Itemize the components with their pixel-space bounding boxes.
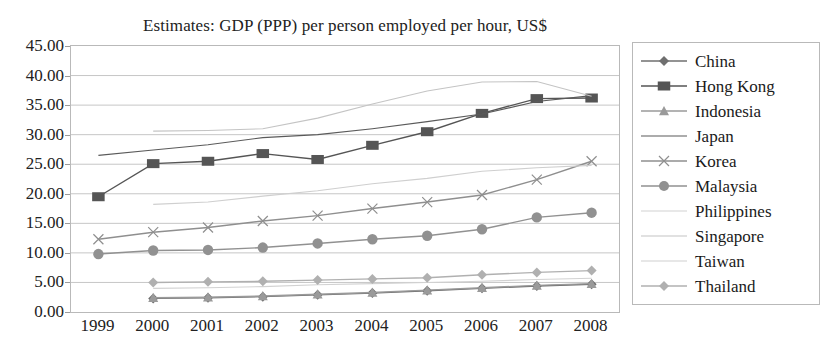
legend-marker-icon	[639, 250, 689, 272]
data-point-marker	[202, 157, 215, 166]
legend-marker-icon	[639, 100, 689, 122]
legend-item-china[interactable]: China	[639, 49, 815, 73]
legend-item-hong-kong[interactable]: Hong Kong	[639, 74, 815, 98]
legend-item-japan[interactable]: Japan	[639, 124, 815, 148]
data-point-marker	[311, 155, 324, 164]
data-point-marker	[421, 127, 434, 136]
data-point-marker	[659, 281, 669, 291]
legend-marker-icon	[639, 275, 689, 297]
data-point-marker	[203, 245, 213, 255]
legend-marker-icon	[639, 125, 689, 147]
series-korea	[93, 156, 596, 244]
data-point-marker	[148, 277, 158, 287]
series-hong-kong	[92, 94, 598, 202]
y-axis-tick	[65, 135, 70, 136]
legend-marker-icon	[639, 225, 689, 247]
series-taiwan	[153, 165, 591, 204]
y-axis-tick-label: 35.00	[26, 95, 64, 115]
y-axis-tick-label: 30.00	[26, 125, 64, 145]
series-line	[98, 213, 591, 254]
data-point-marker	[147, 159, 160, 168]
legend-label: Indonesia	[695, 103, 761, 120]
y-axis-tick	[65, 282, 70, 283]
x-axis-tick-label: 2000	[135, 316, 169, 336]
series-japan	[98, 96, 591, 156]
series-line	[153, 165, 591, 204]
y-axis-tick	[65, 194, 70, 195]
y-axis-tick-label: 20.00	[26, 184, 64, 204]
x-axis-tick-label: 2003	[300, 316, 334, 336]
data-point-marker	[148, 245, 158, 255]
data-point-marker	[422, 231, 432, 241]
y-axis-tick	[65, 46, 70, 47]
legend-item-thailand[interactable]: Thailand	[639, 274, 815, 298]
legend-marker-icon	[639, 150, 689, 172]
y-axis-tick	[65, 76, 70, 77]
data-point-marker	[366, 141, 379, 150]
legend-item-malaysia[interactable]: Malaysia	[639, 174, 815, 198]
legend-marker-icon	[639, 75, 689, 97]
data-point-marker	[313, 275, 323, 285]
data-point-marker	[587, 156, 597, 166]
legend-marker-icon	[639, 200, 689, 222]
data-point-marker	[258, 242, 268, 252]
series-line	[98, 161, 591, 239]
legend-item-korea[interactable]: Korea	[639, 149, 815, 173]
x-axis-tick-label: 1999	[80, 316, 114, 336]
legend-item-philippines[interactable]: Philippines	[639, 199, 815, 223]
x-axis-labels: 1999200020012002200320042005200620072008	[70, 316, 620, 344]
data-point-marker	[477, 224, 487, 234]
x-axis-tick-label: 2007	[519, 316, 553, 336]
data-point-marker	[92, 192, 105, 201]
legend-marker-icon	[639, 50, 689, 72]
plot-svg	[71, 46, 619, 312]
legend-label: Korea	[695, 153, 737, 170]
legend-item-taiwan[interactable]: Taiwan	[639, 249, 815, 273]
y-axis-tick-label: 5.00	[34, 272, 64, 292]
y-axis-tick-label: 45.00	[26, 36, 64, 56]
data-point-marker	[258, 276, 268, 286]
legend-marker-icon	[639, 175, 689, 197]
y-axis-tick-label: 10.00	[26, 243, 64, 263]
chart-legend: ChinaHong KongIndonesiaJapanKoreaMalaysi…	[632, 42, 820, 305]
legend-label: Thailand	[695, 278, 755, 295]
data-point-marker	[587, 266, 597, 276]
data-point-marker	[93, 249, 103, 259]
data-point-marker	[422, 273, 432, 283]
legend-label: China	[695, 53, 736, 70]
chart-title: Estimates: GDP (PPP) per person employed…	[70, 16, 620, 36]
legend-item-singapore[interactable]: Singapore	[639, 224, 815, 248]
y-axis-tick-label: 0.00	[34, 302, 64, 322]
legend-label: Philippines	[695, 203, 772, 220]
x-axis-tick-label: 2002	[245, 316, 279, 336]
series-line	[98, 98, 591, 197]
legend-item-indonesia[interactable]: Indonesia	[639, 99, 815, 123]
x-axis-tick-label: 2006	[464, 316, 498, 336]
data-point-marker	[586, 207, 596, 217]
data-point-marker	[477, 270, 487, 280]
series-singapore	[153, 81, 591, 131]
y-axis-labels: 0.005.0010.0015.0020.0025.0030.0035.0040…	[0, 45, 64, 313]
data-point-marker	[659, 56, 669, 66]
legend-label: Malaysia	[695, 178, 757, 195]
legend-label: Hong Kong	[695, 78, 775, 95]
x-axis-tick-label: 2008	[574, 316, 608, 336]
plot-area	[70, 45, 620, 313]
y-axis-tick	[65, 312, 70, 313]
series-malaysia	[93, 207, 597, 259]
legend-label: Japan	[695, 128, 734, 145]
data-point-marker	[203, 277, 213, 287]
y-axis-tick	[65, 223, 70, 224]
data-point-marker	[658, 82, 671, 91]
y-axis-tick	[65, 164, 70, 165]
data-point-marker	[532, 212, 542, 222]
x-axis-tick-label: 2005	[409, 316, 443, 336]
data-point-marker	[312, 238, 322, 248]
data-point-marker	[532, 267, 542, 277]
series-line	[153, 81, 591, 131]
data-point-marker	[367, 234, 377, 244]
data-point-marker	[532, 175, 542, 185]
chart-container: Estimates: GDP (PPP) per person employed…	[0, 0, 833, 347]
x-axis-tick-label: 2001	[190, 316, 224, 336]
y-axis-tick	[65, 253, 70, 254]
